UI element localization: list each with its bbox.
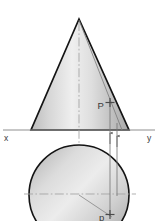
projection-drawing-svg: x y P p (0, 0, 158, 221)
front-view-group (31, 19, 129, 130)
label-y-axis: y (147, 133, 152, 143)
top-view-group (24, 145, 136, 221)
label-point-p-front: P (98, 100, 104, 111)
technical-drawing-canvas: x y P p (0, 0, 158, 221)
cone-triangle-shape (31, 19, 129, 130)
label-point-p-top: p (99, 212, 104, 221)
cone-base-circle-shape (29, 145, 129, 221)
label-x-axis: x (4, 133, 9, 143)
